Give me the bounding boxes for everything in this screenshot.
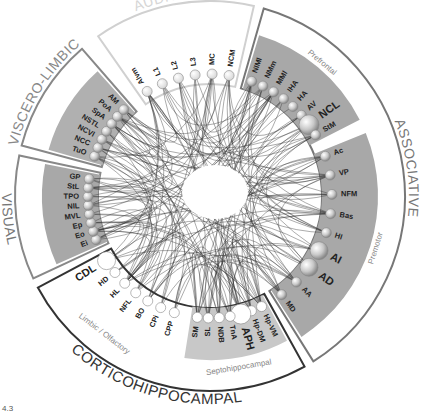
- node-mvl: [84, 209, 94, 219]
- node-sm: [192, 312, 202, 322]
- node-mc: [207, 69, 217, 79]
- node-ai: [310, 242, 328, 260]
- node-ndb: [214, 313, 224, 323]
- node-ep: [86, 218, 96, 228]
- node-l2: [173, 73, 183, 83]
- node-vp: [325, 170, 335, 180]
- node-nfl: [131, 288, 141, 298]
- node-gp: [84, 174, 94, 184]
- node-bas: [326, 209, 336, 219]
- node-label: SL: [203, 327, 212, 337]
- node-cpi: [156, 303, 166, 313]
- node-hi: [321, 228, 331, 238]
- node-tpo: [83, 192, 93, 202]
- node-sl: [203, 313, 213, 323]
- node-niml: [247, 76, 257, 86]
- node-am: [119, 105, 129, 115]
- node-nil: [83, 200, 93, 210]
- node-hl: [120, 278, 130, 288]
- node-bo: [143, 296, 153, 306]
- node-iha: [279, 94, 289, 104]
- node-hd: [110, 268, 120, 278]
- center-hole: [182, 165, 248, 219]
- node-label: NFM: [341, 189, 357, 198]
- node-stm: [311, 130, 321, 140]
- node-l3: [190, 70, 200, 80]
- node-cpp: [169, 308, 179, 318]
- node-label: StL: [67, 181, 80, 191]
- node-l1: [157, 79, 167, 89]
- node-tna: [225, 311, 235, 321]
- node-label: L3: [188, 57, 198, 67]
- node-nmm: [258, 81, 268, 91]
- node-md: [277, 290, 287, 300]
- node-label: NDB: [216, 326, 226, 343]
- node-aa: [291, 277, 301, 287]
- node-ha: [288, 102, 298, 112]
- node-ad: [300, 258, 318, 276]
- node-ncm: [224, 71, 234, 81]
- node-label: NIL: [67, 201, 80, 211]
- node-label: MC: [207, 53, 216, 65]
- node-mml: [269, 87, 279, 97]
- node-ac: [320, 151, 330, 161]
- connectome-diagram: AlvmL1L2L3MCNCMAUDITORYPrefrontalNIMlNMm…: [0, 0, 421, 418]
- node-label: VP: [338, 167, 349, 178]
- node-alvm: [142, 86, 152, 96]
- node-cdl: [98, 252, 116, 270]
- node-hp-vm: [257, 302, 267, 312]
- node-stl: [83, 183, 93, 193]
- node-nfm: [327, 189, 337, 199]
- figure-number: 4.3: [2, 404, 13, 413]
- node-label: SM: [190, 326, 200, 338]
- node-label: GP: [69, 171, 81, 181]
- node-label: TPO: [64, 192, 80, 201]
